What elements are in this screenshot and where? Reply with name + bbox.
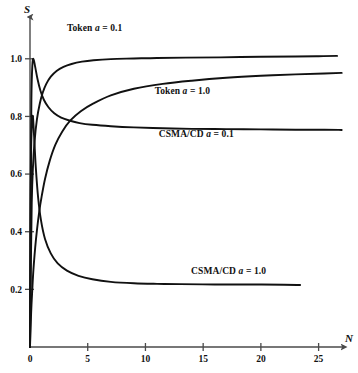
- label-suffix: = 1.0: [243, 266, 266, 276]
- chart-canvas: 0.20.40.60.81.0 0510152025 S N Token a =…: [0, 0, 358, 373]
- curve-2: [30, 59, 342, 347]
- y-tick-label: 0.6: [10, 169, 22, 179]
- curve-0: [30, 56, 337, 347]
- x-tick-label: 25: [314, 354, 324, 364]
- curve-annotations: Token a = 0.1Token a = 1.0CSMA/CD a = 0.…: [67, 23, 266, 275]
- x-tick-label: 0: [28, 354, 33, 364]
- curve-1: [30, 73, 342, 347]
- curve-group: [30, 56, 342, 347]
- curve-label-2: CSMA/CD a = 0.1: [159, 129, 234, 139]
- x-axis-ticks: 0510152025: [28, 343, 324, 364]
- curve-3: [30, 116, 300, 347]
- label-prefix: CSMA/CD: [159, 129, 207, 139]
- y-tick-label: 0.8: [10, 112, 22, 122]
- throughput-chart: 0.20.40.60.81.0 0510152025 S N Token a =…: [0, 0, 358, 373]
- y-tick-label: 1.0: [10, 54, 22, 64]
- label-suffix: = 0.1: [100, 23, 123, 33]
- x-tick-label: 5: [85, 354, 90, 364]
- curve-label-1: Token a = 1.0: [155, 86, 211, 96]
- label-prefix: Token: [155, 86, 183, 96]
- y-tick-label: 0.2: [10, 285, 22, 295]
- label-suffix: = 0.1: [211, 129, 234, 139]
- curve-label-0: Token a = 0.1: [67, 23, 123, 33]
- x-tick-label: 15: [198, 354, 208, 364]
- x-axis-title: N: [344, 332, 354, 344]
- y-tick-label: 0.4: [10, 227, 22, 237]
- label-prefix: CSMA/CD: [191, 266, 239, 276]
- y-axis-title: S: [24, 3, 30, 15]
- label-suffix: = 1.0: [187, 86, 210, 96]
- x-tick-label: 10: [141, 354, 151, 364]
- x-tick-label: 20: [256, 354, 266, 364]
- label-prefix: Token: [67, 23, 95, 33]
- curve-label-3: CSMA/CD a = 1.0: [191, 266, 266, 276]
